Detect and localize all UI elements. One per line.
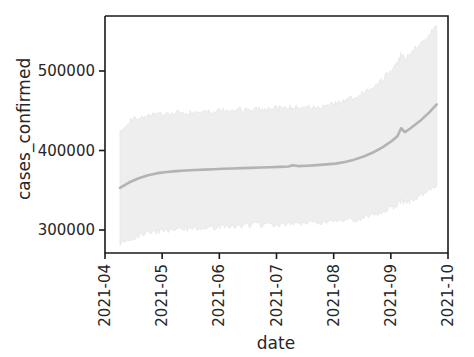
x-axis-title: date — [257, 333, 295, 353]
y-axis-title: cases_confirmed — [14, 58, 35, 200]
y-axis-ticks: 300000400000500000 — [38, 62, 105, 239]
x-tick-label: 2021-06 — [210, 264, 228, 327]
x-tick-label: 2021-04 — [96, 264, 114, 327]
y-tick-label: 500000 — [38, 62, 95, 80]
x-tick-label: 2021-08 — [325, 264, 343, 327]
x-tick-label: 2021-10 — [439, 264, 457, 327]
chart-figure: 300000400000500000 2021-042021-052021-06… — [0, 0, 474, 357]
x-axis-ticks: 2021-042021-052021-062021-072021-082021-… — [96, 253, 457, 327]
line-chart-canvas: 300000400000500000 2021-042021-052021-06… — [0, 0, 474, 357]
y-tick-label: 400000 — [38, 142, 95, 160]
x-tick-label: 2021-05 — [153, 264, 171, 327]
x-tick-label: 2021-07 — [268, 264, 286, 327]
x-tick-label: 2021-09 — [382, 264, 400, 327]
y-tick-label: 300000 — [38, 221, 95, 239]
confidence-band — [120, 26, 437, 246]
